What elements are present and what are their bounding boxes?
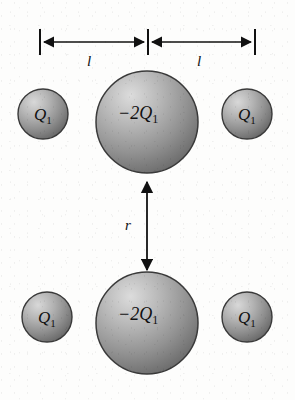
dimension-label-r: r	[125, 217, 131, 233]
sphere-top-center-large: −2Q1	[96, 71, 198, 173]
sphere-bottom-center-large: −2Q1	[96, 272, 198, 374]
sphere-label-bottom-center: −2Q1	[118, 304, 158, 327]
dimension-label-l-left: l	[87, 53, 91, 69]
sphere-label-top-center: −2Q1	[118, 103, 158, 126]
sphere-bottom-right-small: Q1	[222, 292, 272, 342]
sphere-top-left-small: Q1	[18, 89, 68, 139]
sphere-top-right-small: Q1	[222, 89, 272, 139]
charge-configuration-diagram: l l r Q1 −2Q1 Q1 Q1 −2Q1	[0, 0, 295, 400]
diagram-canvas: l l r Q1 −2Q1 Q1 Q1 −2Q1	[0, 0, 295, 400]
sphere-bottom-left-small: Q1	[22, 292, 72, 342]
dimension-label-l-right: l	[197, 53, 201, 69]
